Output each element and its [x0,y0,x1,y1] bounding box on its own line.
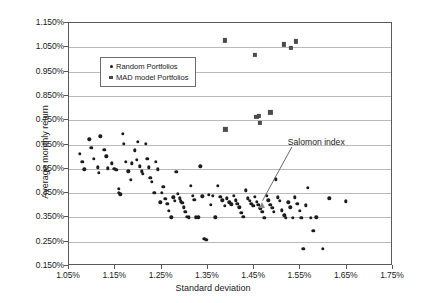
data-point-square [258,121,262,125]
y-axis-tick-label: 0.550% [36,163,64,173]
data-point-diamond [136,140,139,143]
data-point-diamond [221,199,224,202]
data-point-diamond [110,162,113,165]
data-point-diamond [158,201,161,204]
data-point-diamond [209,203,212,206]
y-axis-tick-label: 1.050% [36,41,64,51]
data-point-diamond [119,193,122,196]
x-axis-tick-label: 1.15% [102,270,126,280]
data-point-diamond [293,196,296,199]
x-axis-tick-mark [207,265,208,269]
data-point-diamond [83,168,86,171]
data-point-diamond [321,247,324,250]
data-point-diamond [216,184,219,187]
data-point-diamond [181,201,184,204]
scatter-chart: Average monthly return Standard deviatio… [0,0,426,303]
data-point-square [223,127,227,131]
data-point-diamond [130,162,133,165]
y-axis-tick-label: 0.950% [36,66,64,76]
data-point-diamond [170,216,173,219]
data-point-diamond [265,194,268,197]
data-point-diamond [267,199,270,202]
square-marker-icon [106,76,116,80]
x-axis-tick-label: 1.75% [380,270,404,280]
x-axis-tick-label: 1.05% [56,270,80,280]
y-axis-tick-label: 0.450% [36,187,64,197]
data-point-diamond [162,185,165,188]
data-point-diamond [253,195,256,198]
data-point-diamond [167,209,170,212]
data-point-square [282,42,286,46]
data-point-square [294,39,298,43]
data-point-diamond [238,205,241,208]
x-axis-tick-mark [346,265,347,269]
data-point-diamond [239,211,242,214]
data-point-diamond [164,197,167,200]
data-point-square [253,53,257,57]
x-axis-tick-mark [68,265,69,269]
gridline-horizontal [69,120,391,121]
data-point-diamond [344,200,347,203]
data-point-diamond [280,208,283,211]
data-point-diamond [127,170,130,173]
gridline-horizontal [69,242,391,243]
x-axis-tick-mark [253,265,254,269]
data-point-diamond [160,191,163,194]
data-point-diamond [175,170,178,173]
data-point-diamond [102,148,105,151]
data-point-diamond [154,160,157,163]
data-point-square [268,110,272,114]
gridline-horizontal [69,47,391,48]
data-point-diamond [300,216,303,219]
data-point-diamond [291,216,294,219]
data-point-diamond [304,204,307,207]
data-point-diamond [99,135,102,138]
data-point-diamond [156,168,159,171]
data-point-diamond [78,152,81,155]
y-axis-tick-label: 0.150% [36,260,64,270]
data-point-diamond [133,149,136,152]
data-point-diamond [90,146,93,149]
data-point-diamond [115,168,118,171]
y-axis-tick-label: 0.850% [36,90,64,100]
diamond-marker-icon [106,65,116,68]
data-point-diamond [165,202,168,205]
data-point-diamond [187,216,190,219]
y-axis-tick-label: 0.650% [36,139,64,149]
data-point-diamond [261,210,264,213]
chart-legend: Random PortfoliosMAD model Portfolios [100,57,196,87]
data-point-diamond [302,247,305,250]
gridline-horizontal [69,96,391,97]
data-point-diamond [81,160,84,163]
data-point-diamond [225,197,228,200]
data-point-diamond [287,201,290,204]
data-point-diamond [289,205,292,208]
data-point-diamond [214,216,217,219]
y-axis-tick-label: 0.350% [36,211,64,221]
y-axis-tick-label: 0.250% [36,236,64,246]
x-axis-tick-mark [392,265,393,269]
data-point-diamond [312,229,315,232]
legend-item-label: Random Portfolios [116,62,178,71]
data-point-diamond [135,158,138,161]
x-axis-tick-label: 1.55% [288,270,312,280]
data-point-diamond [193,198,196,201]
legend-item-2[interactable]: MAD model Portfolios [106,72,188,83]
x-axis-label: Standard deviation [0,283,426,293]
x-axis-tick-label: 1.35% [195,270,219,280]
data-point-diamond [124,160,127,163]
data-point-diamond [284,216,287,219]
data-point-diamond [141,172,144,175]
data-point-diamond [183,210,186,213]
data-point-square [289,46,293,50]
legend-item-1[interactable]: Random Portfolios [106,61,188,72]
data-point-diamond [150,180,153,183]
data-point-diamond [173,199,176,202]
data-point-diamond [295,202,298,205]
x-axis-tick-mark [114,265,115,269]
data-point-diamond [92,157,95,160]
data-point-diamond [274,178,277,181]
data-point-diamond [199,165,202,168]
data-point-diamond [232,194,235,197]
annotation-salomon-index: Salomon index [288,137,345,147]
